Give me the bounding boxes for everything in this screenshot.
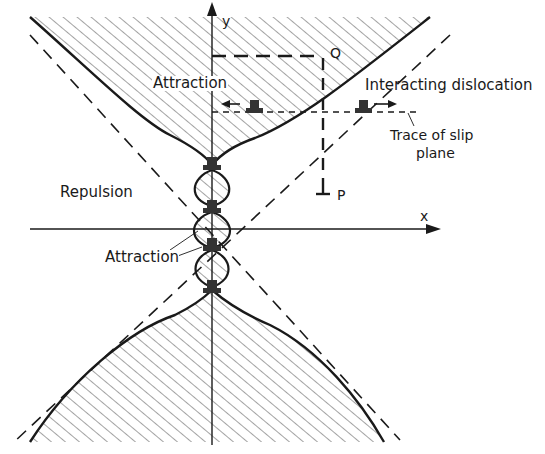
attraction-center-label: Attraction bbox=[105, 250, 179, 265]
y-axis-arrowhead bbox=[207, 2, 217, 16]
interacting-dislocation-right bbox=[355, 100, 372, 113]
slip-plane-label-line1: Trace of slip bbox=[390, 128, 474, 142]
x-axis-arrowhead bbox=[426, 224, 441, 234]
dislocation-p-symbol bbox=[316, 185, 330, 194]
move-right-arrow bbox=[374, 100, 397, 108]
attraction-upper-label: Attraction bbox=[152, 76, 228, 91]
y-axis-label: y bbox=[222, 14, 230, 28]
lower-attraction-region bbox=[30, 290, 384, 442]
x-axis-label: x bbox=[420, 209, 428, 223]
interacting-dislocation-label: Interacting dislocation bbox=[365, 78, 533, 93]
trace-leader-line bbox=[408, 113, 414, 126]
slip-plane-label-line2: plane bbox=[416, 146, 455, 160]
dislocation-diagram bbox=[0, 0, 545, 454]
point-q-label: Q bbox=[330, 46, 341, 60]
point-p-label: P bbox=[337, 188, 345, 202]
repulsion-label: Repulsion bbox=[60, 185, 133, 200]
